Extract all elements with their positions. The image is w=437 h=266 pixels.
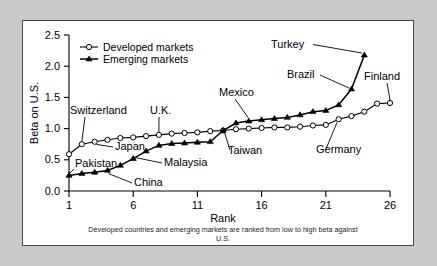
annotation-leader-malaysia	[135, 158, 162, 164]
legend-label-emerging-markets: Emerging markets	[103, 53, 188, 65]
chart-legend: Developed markets Emerging markets	[80, 41, 193, 65]
data-point	[182, 130, 187, 135]
annotation-label-china: China	[134, 176, 164, 188]
annotation-label-mexico: Mexico	[219, 86, 254, 98]
data-point	[169, 131, 174, 136]
annotation-leader-switzerland	[82, 117, 85, 141]
data-point	[259, 125, 264, 130]
x-tick-label-5: 26	[384, 199, 396, 211]
data-point	[298, 124, 303, 129]
data-point	[362, 109, 367, 114]
data-point	[66, 152, 71, 157]
figure-panel: 0.0 0.5 1.0 1.5 2.0 2.5 1 6 11 16 21	[22, 20, 414, 246]
x-tick-label-1: 6	[130, 199, 136, 211]
annotation-label-japan: Japan	[115, 140, 145, 152]
data-point	[233, 127, 238, 132]
annotation-label-malaysia: Malaysia	[164, 156, 208, 168]
legend-label-developed-markets: Developed markets	[103, 41, 193, 53]
x-axis-ticks: 1 6 11 16 21 26	[66, 191, 396, 211]
x-axis-title: Rank	[210, 212, 236, 224]
annotation-label-finland: Finland	[364, 70, 400, 82]
data-point	[143, 134, 148, 139]
data-point	[246, 126, 251, 131]
data-point	[79, 142, 84, 147]
data-point	[92, 139, 97, 144]
data-point	[336, 117, 341, 122]
y-tick-label-4: 2.0	[45, 60, 60, 72]
legend-entry-developed-markets: Developed markets	[80, 41, 193, 53]
annotation-leader-mexico	[235, 99, 248, 118]
y-axis-ticks: 0.0 0.5 1.0 1.5 2.0 2.5	[45, 29, 69, 197]
y-tick-label-0: 0.0	[45, 185, 60, 197]
x-tick-label-3: 16	[255, 199, 267, 211]
data-point	[105, 137, 110, 142]
annotation-leader-china	[109, 174, 133, 184]
data-point	[348, 86, 354, 91]
y-tick-label-1: 0.5	[45, 153, 60, 165]
x-tick-label-0: 1	[66, 199, 72, 211]
annotation-leader-brazil	[320, 75, 349, 88]
data-point	[195, 130, 200, 135]
annotation-label-uk: U.K.	[150, 104, 171, 116]
y-tick-label-2: 1.0	[45, 122, 60, 134]
annotation-leader-finland	[387, 83, 390, 100]
chart-caption-wrap: Developed countries and emerging markets…	[83, 225, 363, 245]
y-tick-label-3: 1.5	[45, 91, 60, 103]
data-point	[387, 100, 392, 105]
annotation-label-pakistan: Pakistan	[75, 157, 117, 169]
annotation-label-germany: Germany	[316, 143, 362, 155]
legend-marker-open-circle-icon	[86, 44, 91, 49]
x-tick-label-2: 11	[192, 199, 203, 211]
annotation-leader-pakistan	[70, 169, 75, 174]
data-point	[208, 129, 213, 134]
chart-caption: Developed countries and emerging markets…	[83, 225, 363, 243]
data-point	[375, 101, 380, 106]
data-point	[361, 52, 367, 57]
annotation-label-taiwan: Taiwan	[228, 144, 262, 156]
data-point	[272, 125, 277, 130]
legend-entry-emerging-markets: Emerging markets	[80, 53, 188, 65]
annotation-label-brazil: Brazil	[287, 68, 315, 80]
y-axis-title: Beta on U.S.	[28, 82, 40, 144]
data-point	[310, 123, 315, 128]
data-point	[156, 132, 161, 137]
data-point	[323, 122, 328, 127]
annotation-label-turkey: Turkey	[271, 38, 305, 50]
x-tick-label-4: 21	[320, 199, 332, 211]
beta-rank-line-chart: 0.0 0.5 1.0 1.5 2.0 2.5 1 6 11 16 21	[23, 21, 413, 245]
data-point	[285, 125, 290, 130]
data-point	[349, 114, 354, 119]
annotation-leader-japan	[97, 144, 114, 147]
annotation-label-switzerland: Switzerland	[70, 104, 127, 116]
y-tick-label-5: 2.5	[45, 29, 60, 41]
annotation-leader-turkey	[313, 45, 362, 54]
